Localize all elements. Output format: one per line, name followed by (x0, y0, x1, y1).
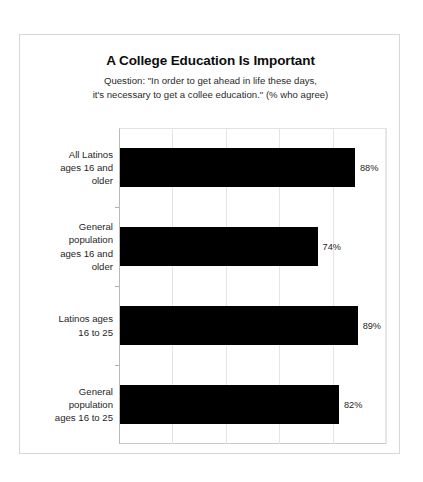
bar-row: 89% (119, 306, 386, 345)
category-label-line: older (23, 174, 113, 187)
category-label-line: All Latinos (23, 148, 113, 161)
bar-value-label-1: 88% (360, 164, 378, 173)
category-label-latinos-16-to-25: Latinos ages16 to 25 (23, 312, 113, 338)
bar-2 (120, 227, 318, 266)
category-label-line: General (23, 385, 113, 398)
chart-figure: A College Education Is Important Questio… (0, 0, 423, 482)
category-label-general-population-16-to-25: Generalpopulationages 16 to 25 (23, 385, 113, 425)
bar-value-label-2: 74% (323, 243, 341, 252)
category-tick-2 (115, 286, 119, 287)
category-tick-1 (115, 207, 119, 208)
chart-title: A College Education Is Important (20, 53, 401, 69)
category-label-line: population (23, 233, 113, 246)
bar-row: 88% (119, 148, 386, 187)
category-label-general-population-16-plus: Generalpopulationages 16 andolder (23, 220, 113, 273)
category-label-all-latinos-16-plus: All Latinosages 16 andolder (23, 148, 113, 188)
category-label-line: population (23, 398, 113, 411)
chart-subtitle-line-1: Question: "In order to get ahead in life… (20, 74, 401, 88)
category-axis-labels: All Latinosages 16 andolder Generalpopul… (20, 128, 113, 444)
bar-value-label-4: 82% (344, 401, 362, 410)
bar-value-label-3: 89% (363, 322, 381, 331)
category-label-line: Latinos ages (23, 312, 113, 325)
plot-wrap: 88%74%89%82% (119, 128, 386, 444)
gridline-100 (386, 128, 387, 444)
title-block: A College Education Is Important Questio… (20, 53, 401, 102)
category-tick-3 (115, 365, 119, 366)
bar-1 (120, 148, 355, 187)
category-label-line: General (23, 220, 113, 233)
category-label-line: ages 16 and (23, 161, 113, 174)
bar-row: 74% (119, 227, 386, 266)
bar-3 (120, 306, 358, 345)
chart-subtitle-line-2: it's necessary to get a collee education… (20, 88, 401, 102)
chart-card: A College Education Is Important Questio… (19, 34, 400, 454)
category-label-line: ages 16 to 25 (23, 411, 113, 424)
category-label-line: ages 16 and (23, 247, 113, 260)
category-label-line: 16 to 25 (23, 326, 113, 339)
category-label-line: older (23, 260, 113, 273)
bar-4 (120, 385, 339, 424)
bar-row: 82% (119, 385, 386, 424)
